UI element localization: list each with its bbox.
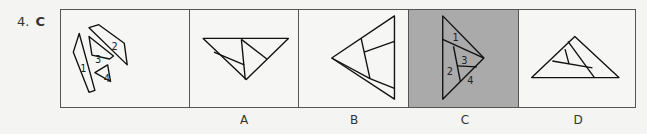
puzzle-strip: 1 2 3 4: [60, 9, 636, 108]
pieces-panel: 1 2 3 4: [61, 10, 190, 107]
piece-label-4: 4: [104, 73, 110, 84]
piece-label-1: 1: [80, 63, 86, 74]
c-piece-label-4: 4: [467, 75, 473, 86]
option-a-figure: [190, 10, 299, 107]
c-piece-label-1: 1: [452, 32, 458, 43]
c-piece-label-3: 3: [461, 55, 467, 66]
c-piece-label-2: 2: [446, 66, 452, 77]
option-b-label[interactable]: B: [350, 113, 358, 127]
piece-label-2: 2: [112, 41, 118, 52]
option-d-label[interactable]: D: [573, 113, 582, 127]
option-b-panel[interactable]: [299, 10, 409, 107]
option-a-label[interactable]: A: [240, 113, 248, 127]
option-c-label[interactable]: C: [461, 113, 469, 127]
option-c-figure: 1 2 3 4: [409, 10, 519, 107]
option-d-panel[interactable]: [519, 10, 635, 107]
option-c-panel[interactable]: 1 2 3 4: [409, 10, 520, 107]
option-d-figure: [519, 10, 635, 107]
piece-label-3: 3: [95, 54, 101, 65]
option-labels: A B C D: [60, 113, 636, 129]
question-number: 4.C: [17, 14, 45, 29]
pieces-figure: 1 2 3 4: [61, 10, 189, 107]
option-b-figure: [299, 10, 408, 107]
answer-letter: C: [35, 14, 45, 29]
question-number-text: 4.: [17, 14, 29, 29]
option-a-panel[interactable]: [190, 10, 300, 107]
